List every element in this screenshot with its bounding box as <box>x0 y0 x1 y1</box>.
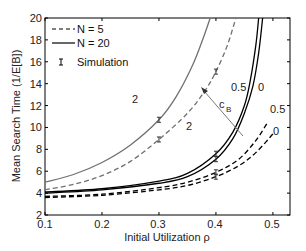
arrow-label-c: c <box>219 98 225 110</box>
x-axis-label: Initial Utilization ρ <box>124 231 210 243</box>
x-tick-labels: 0.1 0.2 0.3 0.4 0.5 <box>37 218 279 230</box>
x-tick-label: 0.2 <box>94 218 109 230</box>
y-tick-label: 20 <box>30 12 42 24</box>
x-tick-label: 0.3 <box>150 218 165 230</box>
y-tick-label: 6 <box>36 165 42 177</box>
arrow-label-subscript: B <box>226 105 231 114</box>
y-tick-label: 4 <box>36 187 42 199</box>
y-tick-label: 18 <box>30 34 42 46</box>
y-tick-label: 10 <box>30 121 42 133</box>
y-axis-label: Mean Search Time (1/E[B]) <box>10 50 22 183</box>
y-tick-label: 12 <box>30 100 42 112</box>
y-tick-labels: 2 4 6 8 10 12 14 16 18 20 <box>30 12 42 221</box>
curve-label-n5-cb0: 0 <box>273 125 279 137</box>
legend-n5: N = 5 <box>77 23 104 35</box>
x-tick-label: 0.5 <box>264 218 279 230</box>
curve-label-n20-cb2: 2 <box>132 93 138 105</box>
curve-label-n20-cb05: 0.5 <box>231 81 246 93</box>
legend-simulation: Simulation <box>77 56 128 68</box>
x-tick-label: 0.1 <box>37 218 52 230</box>
chart: 2 4 6 8 10 12 14 16 18 20 0.1 0.2 0.3 0.… <box>0 0 306 251</box>
curve-label-n5-cb05: 0.5 <box>270 103 285 115</box>
curve-label-n20-cb0: 0 <box>258 81 264 93</box>
y-tick-label: 16 <box>30 56 42 68</box>
x-tick-label: 0.4 <box>207 218 222 230</box>
curve-label-n5-cb2: 2 <box>186 120 192 132</box>
y-tick-label: 14 <box>30 78 42 90</box>
legend-n20: N = 20 <box>77 37 110 49</box>
y-tick-label: 8 <box>36 143 42 155</box>
